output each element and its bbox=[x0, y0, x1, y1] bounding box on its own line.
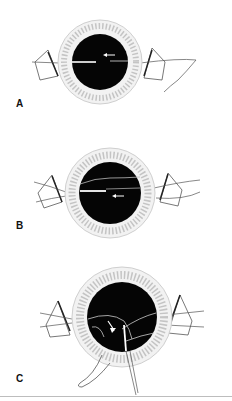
eye-illustration-a bbox=[0, 0, 232, 130]
panel-a: A bbox=[0, 0, 232, 130]
bottom-divider bbox=[0, 396, 232, 397]
pupil-b bbox=[79, 162, 141, 224]
pupil-c bbox=[87, 282, 157, 352]
panel-label-c: C bbox=[16, 373, 23, 384]
panel-b: B bbox=[0, 130, 232, 255]
panel-label-a: A bbox=[16, 98, 23, 109]
eye-illustration-c bbox=[0, 255, 232, 396]
panel-c: C bbox=[0, 255, 232, 396]
panel-label-b: B bbox=[16, 220, 23, 231]
eye-illustration-b bbox=[0, 130, 232, 255]
